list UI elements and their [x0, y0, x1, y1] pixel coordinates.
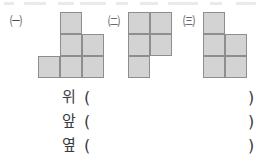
paren-close: ) [248, 110, 254, 133]
cube-square [203, 12, 225, 34]
cube-square [60, 56, 82, 78]
cube-square [203, 34, 225, 56]
cube-square [60, 34, 82, 56]
paren-open: ( [84, 110, 90, 133]
figure-label-a: ㈠ [8, 14, 24, 30]
answer-row-side: 옆() [0, 134, 277, 157]
answer-lines: 위()앞()옆() [0, 86, 277, 165]
answer-row-side-label: 옆 [62, 134, 77, 157]
paren-open: ( [84, 86, 90, 109]
cube-square [60, 12, 82, 34]
figure-label-c: ㈢ [181, 14, 197, 30]
cube-square [225, 56, 247, 78]
answer-row-side-blank[interactable] [94, 134, 246, 157]
top-cropped-text-artifact [0, 0, 277, 7]
cube-figures-row: ㈠㈡㈢ [0, 12, 277, 84]
cube-square [150, 34, 172, 56]
answer-row-top-blank[interactable] [94, 86, 246, 109]
cube-square [150, 12, 172, 34]
cube-grid-3 [203, 12, 269, 78]
paren-close: ) [248, 134, 254, 157]
answer-row-front: 앞() [0, 110, 277, 133]
answer-row-front-label: 앞 [62, 110, 77, 133]
answer-row-front-blank[interactable] [94, 110, 246, 133]
cube-square [128, 56, 150, 78]
answer-row-top-label: 위 [62, 86, 77, 109]
answer-row-top: 위() [0, 86, 277, 109]
figure-label-b: ㈡ [106, 14, 122, 30]
cube-square [38, 56, 60, 78]
cube-square [128, 12, 150, 34]
cube-square [82, 56, 104, 78]
cube-square [225, 34, 247, 56]
paren-open: ( [84, 134, 90, 157]
paren-close: ) [248, 86, 254, 109]
cube-grid-1 [38, 12, 104, 78]
cube-square [203, 56, 225, 78]
cube-square [128, 34, 150, 56]
cube-square [82, 34, 104, 56]
